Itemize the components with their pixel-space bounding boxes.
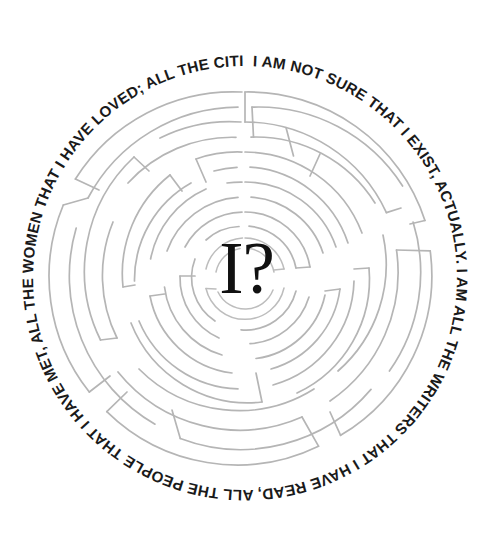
maze-ring-3 xyxy=(192,226,296,330)
maze-ring-7 xyxy=(134,167,354,389)
maze-ring-2 xyxy=(206,238,284,319)
maze-rings xyxy=(49,92,432,465)
maze-ring-6 xyxy=(150,182,340,373)
maze-ring-12 xyxy=(49,92,432,465)
labyrinth-illustration: I AM NOT SURE THAT I EXIST, ACTUALLY. I … xyxy=(0,0,491,545)
maze-ring-10 xyxy=(84,122,398,430)
artwork-canvas: I AM NOT SURE THAT I EXIST, ACTUALLY. I … xyxy=(0,0,491,545)
maze-radial-walls xyxy=(63,92,430,446)
maze-ring-4 xyxy=(180,212,310,344)
maze-ring-9 xyxy=(102,137,386,411)
maze-ring-1 xyxy=(216,248,274,309)
maze-ring-5 xyxy=(165,197,326,358)
maze-ring-8 xyxy=(122,152,369,403)
